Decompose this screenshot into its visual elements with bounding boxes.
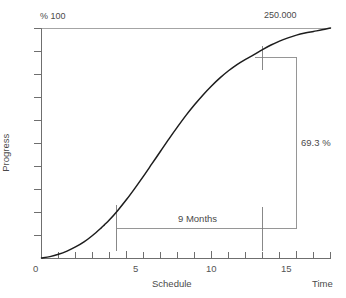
x-axis-ticks — [42, 251, 331, 259]
percent-drop-annotation-label: 69.3 % — [301, 138, 331, 148]
x-tick-label-15: 15 — [281, 264, 292, 274]
x-axis-right-label: Time — [312, 279, 333, 289]
y-axis-top-label: % 100 — [40, 12, 66, 21]
progress-s-curve-chart: % 100 250.000 Progress Schedule Time 0 5… — [0, 0, 346, 298]
y-axis-ticks — [34, 29, 42, 236]
months-annotation-label: 9 Months — [178, 214, 217, 224]
total-value-label: 250.000 — [264, 11, 297, 20]
x-tick-label-0: 0 — [33, 264, 38, 274]
x-tick-label-10: 10 — [206, 264, 217, 274]
x-axis-title: Schedule — [152, 279, 192, 289]
chart-canvas — [0, 0, 346, 298]
y-axis-title: Progress — [1, 134, 11, 172]
x-tick-label-5: 5 — [133, 264, 138, 274]
annotation-lines — [117, 58, 297, 229]
